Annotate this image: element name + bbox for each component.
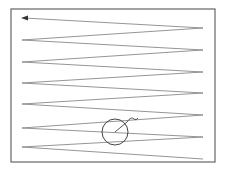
scan-diagram: [0, 0, 227, 178]
frame: [11, 9, 215, 162]
zigzag-scan-path: [22, 18, 203, 159]
arrowhead-icon: [21, 16, 28, 21]
